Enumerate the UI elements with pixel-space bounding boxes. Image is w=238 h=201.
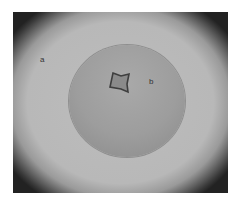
droplet: [69, 45, 185, 157]
label-b: b: [149, 78, 153, 86]
crystal: [107, 71, 133, 95]
microscope-field: a b: [13, 12, 228, 193]
label-a: a: [40, 56, 44, 64]
